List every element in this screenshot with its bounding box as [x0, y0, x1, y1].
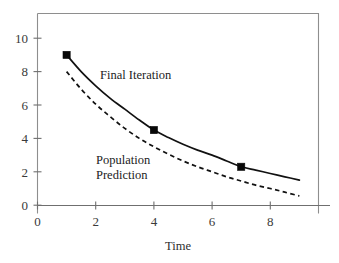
- data-point-marker: [150, 126, 157, 133]
- figure-background: [0, 0, 339, 263]
- x-tick-label-8: 8: [267, 214, 274, 229]
- x-tick-label-4: 4: [151, 214, 158, 229]
- x-tick-label-2: 2: [92, 214, 99, 229]
- y-tick-label-6: 6: [22, 98, 29, 113]
- y-tick-label-10: 10: [15, 31, 28, 46]
- y-tick-label-2: 2: [22, 165, 29, 180]
- annotation-population-prediction-line-2: Prediction: [96, 168, 148, 182]
- x-tick-label-0: 0: [34, 214, 41, 229]
- annotation-population-prediction-line-1: Population: [96, 153, 151, 167]
- x-tick-label-6: 6: [209, 214, 216, 229]
- chart-figure: 10 8 6 4 2 0 0 2 4 6 8 Time: [0, 0, 339, 263]
- y-tick-label-0: 0: [22, 198, 29, 213]
- annotation-population-prediction: Population Prediction: [96, 153, 151, 182]
- x-axis-title: Time: [165, 239, 191, 253]
- y-tick-label-4: 4: [22, 131, 29, 146]
- data-point-marker: [63, 51, 70, 58]
- data-point-marker: [238, 163, 245, 170]
- chart-canvas: 10 8 6 4 2 0 0 2 4 6 8 Time: [0, 0, 339, 263]
- y-tick-label-8: 8: [22, 64, 29, 79]
- annotation-final-iteration-line-1: Final Iteration: [100, 68, 172, 82]
- annotation-final-iteration: Final Iteration: [100, 68, 172, 82]
